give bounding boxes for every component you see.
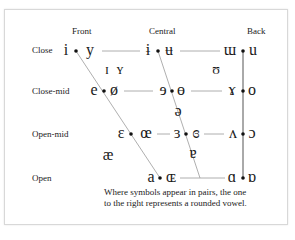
vowel-near-close-front-rounded: ʏ [117,63,124,77]
vowel-open-front-unrounded: a [147,169,154,185]
vowel-open-mid-central-unrounded: ɜ [174,125,181,141]
vowel-near-close-back-rounded: ʊ [212,63,220,77]
vowel-close-mid-central-unrounded: ɘ [159,82,166,98]
caption-line-2: to the right represents a rounded vowel. [104,198,247,209]
vowel-near-open-central: ɐ [189,145,196,161]
vowel-close-central-rounded: ʉ [165,42,173,58]
vowel-close-mid-central-rounded: ɵ [177,82,185,98]
vowel-close-front-rounded: y [86,42,94,58]
column-header-front: Front [72,26,92,36]
row-label-open-mid: Open-mid [32,129,69,139]
vowel-close-mid-front-unrounded: e [90,82,97,98]
vowel-open-mid-front-unrounded: ɛ [118,125,125,141]
vowel-open-back-rounded: ɒ [248,169,256,185]
vowel-close-back-unrounded: ɯ [224,42,236,58]
vowel-near-close-front-unrounded: ɪ [105,63,109,77]
vowel-close-front-unrounded: i [64,42,68,58]
vowel-close-mid-front-rounded: ø [110,82,118,98]
vowel-close-mid-back-rounded: o [248,82,256,98]
vowel-close-back-rounded: u [249,42,257,58]
column-header-central: Central [149,26,176,36]
row-label-close-mid: Close-mid [32,86,70,96]
vowel-close-mid-back-unrounded: ɤ [228,82,235,98]
vowel-open-mid-back-unrounded: ʌ [229,125,237,141]
vowel-close-central-unrounded: ɨ [146,42,150,58]
vowel-open-mid-central-rounded: ɞ [192,125,199,141]
vowel-open-front-rounded: ɶ [166,169,176,185]
vowel-mid-central-schwa: ə [174,103,181,119]
vowel-open-back-unrounded: ɑ [228,169,236,185]
column-header-back: Back [247,26,266,36]
row-label-open: Open [32,173,52,183]
vowel-near-open-front: æ [103,147,114,163]
vowel-open-mid-back-rounded: ɔ [248,125,255,141]
caption-line-1: Where symbols appear in pairs, the one [104,187,246,198]
row-label-close: Close [32,45,53,55]
vowel-open-mid-front-rounded: œ [140,125,152,141]
